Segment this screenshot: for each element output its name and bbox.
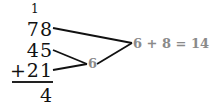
line-1-to-partial	[53, 64, 87, 70]
partial-sum-label: 6	[88, 57, 97, 70]
sum-rule	[12, 81, 53, 83]
addend-row-1: 78	[27, 20, 53, 39]
line-partial-to-sum	[97, 43, 132, 64]
ones-sum-label: 6 + 8 = 14	[133, 37, 209, 50]
addend-row-3: +21	[10, 61, 53, 80]
result-digit: 4	[40, 86, 53, 105]
line-8-to-sum	[53, 28, 132, 43]
carry-digit: 1	[31, 3, 39, 15]
line-5-to-partial	[53, 50, 87, 64]
addend-row-2: 45	[27, 41, 53, 60]
